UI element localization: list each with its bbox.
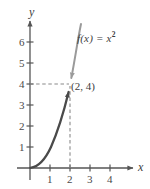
function-equation-base: f(x) = x (77, 32, 112, 44)
y-tick-label-5: 5 (19, 58, 25, 69)
y-tick-label-4: 4 (19, 79, 25, 90)
y-tick-label-1: 1 (19, 142, 25, 153)
y-tick-label-2: 2 (19, 121, 25, 132)
curve-lower-dark (30, 92, 68, 168)
x-tick-label-2: 2 (67, 174, 73, 185)
y-tick-label-3: 3 (19, 100, 25, 111)
function-equation-exponent: 2 (112, 30, 116, 39)
x-tick-label-1: 1 (47, 174, 53, 185)
x-axis-label: x (138, 161, 143, 173)
plot-canvas (0, 0, 150, 189)
function-equation-label: f(x) = x2 (77, 33, 116, 44)
x-tick-label-4: 4 (107, 174, 113, 185)
y-tick-label-6: 6 (19, 37, 25, 48)
point-coordinate-label: (2, 4) (71, 81, 95, 92)
y-axis-label: y (29, 6, 34, 18)
x-tick-label-3: 3 (87, 174, 93, 185)
parabola-figure: 1 2 3 4 5 6 1 2 3 4 y x f(x) = x2 (2, 4) (0, 0, 150, 189)
